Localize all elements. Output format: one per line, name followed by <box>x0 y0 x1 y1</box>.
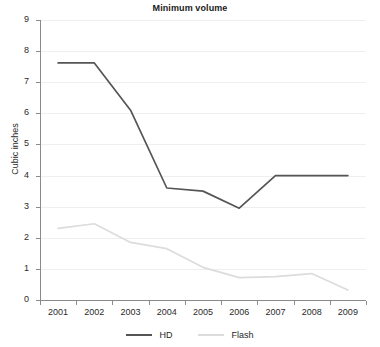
legend-swatch-hd <box>126 334 152 336</box>
legend-item-hd[interactable]: HD <box>126 330 172 340</box>
legend-label-flash: Flash <box>231 330 253 340</box>
series-line-hd <box>58 63 348 208</box>
chart-legend: HD Flash <box>0 330 380 340</box>
chart-container: Minimum volume Cubic inches 0123456789 2… <box>0 0 380 347</box>
legend-item-flash[interactable]: Flash <box>198 330 253 340</box>
legend-label-hd: HD <box>159 330 172 340</box>
legend-swatch-flash <box>198 334 224 336</box>
plot-area <box>0 0 380 347</box>
series-line-flash <box>58 224 348 290</box>
